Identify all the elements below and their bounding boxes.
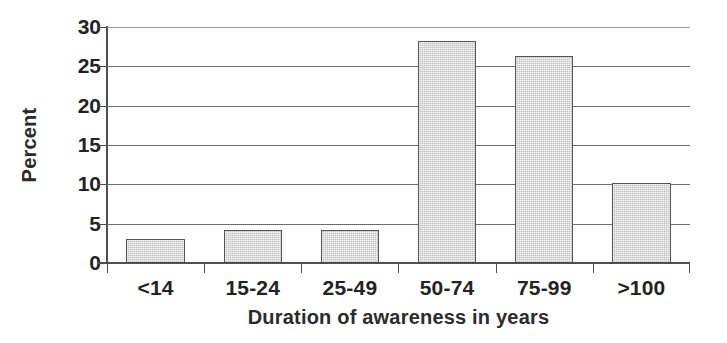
bar-slot-2 [301,27,398,263]
y-tick-mark-25 [98,66,107,67]
bar-15-24 [224,230,282,263]
y-tick-label-30: 30 [55,16,101,38]
y-tick-label-15: 15 [55,134,101,156]
y-tick-mark-0 [98,262,107,263]
bar-chart-figure: Percent 30 25 20 15 10 5 0 [0,0,727,343]
x-tick-mark-2 [301,264,302,273]
y-tick-label-0: 0 [55,252,101,274]
x-axis-title: Duration of awareness in years [107,306,690,329]
x-tick-label-25-49: 25-49 [301,274,398,302]
y-tick-mark-30 [98,27,107,28]
x-tick-label-gt100: >100 [593,274,690,302]
bar-gt100 [612,183,670,263]
x-tick-label-75-99: 75-99 [496,274,593,302]
x-tick-mark-1 [204,264,205,273]
y-axis-title: Percent [14,27,44,263]
bar-slot-0 [107,27,204,263]
y-tick-label-20: 20 [55,95,101,117]
x-tick-mark-6 [689,264,690,273]
bar-lt14 [126,239,184,263]
x-tick-label-15-24: 15-24 [204,274,301,302]
bar-slot-3 [399,27,496,263]
bar-slot-5 [593,27,690,263]
bar-50-74 [418,41,476,263]
bar-75-99 [515,56,573,263]
bar-slot-4 [496,27,593,263]
bar-slot-1 [204,27,301,263]
plot-area [107,27,690,263]
bar-series [107,27,690,263]
x-tick-mark-5 [593,264,594,273]
x-tick-mark-3 [398,264,399,273]
y-tick-mark-5 [98,224,107,225]
y-tick-label-25: 25 [55,55,101,77]
x-tick-mark-4 [496,264,497,273]
x-tick-mark-0 [107,264,108,273]
y-tick-mark-20 [98,106,107,107]
y-tick-label-10: 10 [55,173,101,195]
x-tick-label-lt14: <14 [107,274,204,302]
y-axis-tick-labels: 30 25 20 15 10 5 0 [45,0,101,343]
x-axis-tick-labels: <14 15-24 25-49 50-74 75-99 >100 [107,274,690,302]
x-axis-tick-marks [107,263,690,273]
y-tick-label-5: 5 [55,213,101,235]
y-tick-mark-10 [98,184,107,185]
bar-25-49 [321,230,379,263]
x-tick-label-50-74: 50-74 [399,274,496,302]
y-tick-mark-15 [98,145,107,146]
